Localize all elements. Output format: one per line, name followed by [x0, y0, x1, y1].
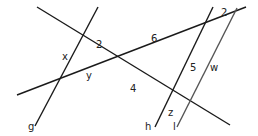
label-y: y: [86, 70, 92, 81]
label-z: z: [168, 107, 173, 118]
label-x: x: [62, 51, 68, 62]
label-h: h: [145, 121, 151, 132]
label-6: 6: [151, 33, 157, 44]
label-4: 4: [130, 83, 136, 94]
geometry-diagram: x2y645w2zghl: [0, 0, 258, 136]
label-2-right: 2: [221, 7, 227, 18]
label-l: l: [173, 121, 176, 132]
label-g: g: [28, 121, 34, 132]
line-l: [177, 8, 237, 127]
label-w: w: [210, 62, 218, 73]
label-2-left: 2: [96, 39, 102, 50]
line-transversal: [17, 7, 246, 95]
label-5: 5: [190, 62, 196, 73]
